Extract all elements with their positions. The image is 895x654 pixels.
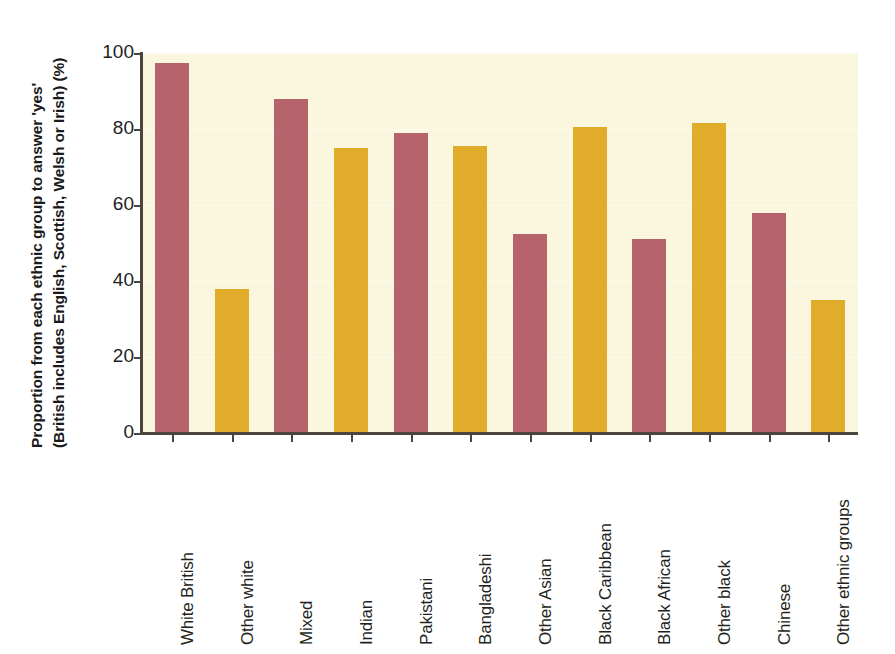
x-axis-tick-mark <box>411 435 413 442</box>
y-axis-tick-mark <box>134 205 141 207</box>
x-axis-tick-mark <box>470 435 472 442</box>
y-axis-tick-labels: 100806040200 <box>82 0 134 500</box>
y-axis-tick-label: 40 <box>86 269 134 291</box>
y-axis-tick-label: 20 <box>86 345 134 367</box>
x-axis-tick-mark <box>590 435 592 442</box>
x-axis-tick-mark <box>769 435 771 442</box>
x-axis-tick-mark <box>172 435 174 442</box>
x-axis-category-label: Mixed <box>297 601 317 645</box>
gridline <box>142 205 858 206</box>
y-axis-tick-label: 100 <box>86 41 134 63</box>
x-axis-category-label: Other black <box>715 560 735 645</box>
bar <box>752 213 786 433</box>
x-axis-tick-mark <box>351 435 353 442</box>
bar <box>632 239 666 433</box>
y-axis-title: Proportion from each ethnic group to ans… <box>0 0 92 470</box>
y-axis-tick-label: 60 <box>86 193 134 215</box>
bar <box>274 99 308 433</box>
y-axis-title-line-2: (British includes English, Scottish, Wel… <box>50 58 68 448</box>
y-axis-tick-mark <box>134 357 141 359</box>
x-axis-category-label: Other Asian <box>536 558 556 645</box>
bar <box>394 133 428 433</box>
x-axis-tick-mark <box>530 435 532 442</box>
x-axis-tick-mark <box>828 435 830 442</box>
y-axis-line <box>140 52 143 434</box>
x-axis-tick-mark <box>709 435 711 442</box>
bar-chart: Proportion from each ethnic group to ans… <box>0 0 895 654</box>
x-axis-category-label: White British <box>178 552 198 645</box>
plot-area <box>142 53 858 433</box>
x-axis-category-label: Black African <box>655 549 675 645</box>
y-axis-tick-label: 0 <box>86 421 134 443</box>
x-axis-tick-mark <box>291 435 293 442</box>
gridline <box>142 53 858 54</box>
bar <box>453 146 487 433</box>
x-axis-category-label: Other white <box>238 560 258 645</box>
x-axis-category-label: Pakistani <box>417 578 437 645</box>
bar <box>334 148 368 433</box>
x-axis-category-label: Bangladeshi <box>476 554 496 645</box>
x-axis-category-label: Other ethnic groups <box>834 499 854 645</box>
x-axis-line <box>140 432 858 435</box>
bar <box>811 300 845 433</box>
y-axis-tick-mark <box>134 53 141 55</box>
x-axis-category-label: Indian <box>357 600 377 645</box>
bar <box>215 289 249 433</box>
bar <box>573 127 607 433</box>
bar <box>155 63 189 434</box>
y-axis-tick-mark <box>134 433 141 435</box>
y-axis-title-line-1: Proportion from each ethnic group to ans… <box>28 83 46 448</box>
x-axis-category-label: Black Caribbean <box>596 523 616 645</box>
y-axis-tick-mark <box>134 129 141 131</box>
x-axis-category-label: Chinese <box>775 584 795 645</box>
y-axis-tick-mark <box>134 281 141 283</box>
bar <box>513 234 547 434</box>
bar <box>692 123 726 433</box>
x-axis-tick-mark <box>649 435 651 442</box>
y-axis-tick-label: 80 <box>86 117 134 139</box>
x-axis-tick-mark <box>232 435 234 442</box>
gridline <box>142 129 858 130</box>
